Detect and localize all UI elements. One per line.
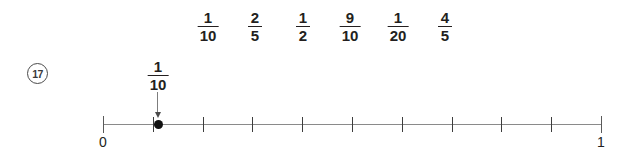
fraction-glyph: 120	[388, 10, 409, 43]
question-number-label: 17	[32, 68, 43, 80]
fraction-denominator: 2	[297, 27, 309, 43]
fraction-numerator: 1	[202, 10, 214, 26]
fraction-option-5[interactable]: 120	[388, 9, 409, 43]
fraction-denominator: 10	[340, 27, 361, 43]
number-line[interactable]: 0 1	[0, 105, 623, 149]
fraction-glyph: 1 10	[148, 59, 169, 92]
fraction-option-6[interactable]: 45	[438, 9, 452, 43]
fraction-denominator: 10	[198, 27, 219, 43]
fraction-glyph: 25	[248, 10, 262, 43]
fraction-option-2[interactable]: 25	[248, 9, 262, 43]
axis-label-end: 1	[597, 134, 605, 149]
fraction-denominator: 20	[388, 27, 409, 43]
fraction-glyph: 910	[340, 10, 361, 43]
fraction-numerator: 1	[152, 59, 164, 75]
fraction-numerator: 1	[392, 10, 404, 26]
number-line-marker-dot[interactable]	[154, 120, 163, 129]
number-line-tick	[302, 117, 303, 132]
fraction-option-3[interactable]: 12	[296, 9, 310, 43]
question-number-badge: 17	[27, 63, 48, 84]
fraction-denominator: 5	[439, 27, 451, 43]
fraction-glyph: 110	[198, 10, 219, 43]
number-line-tick	[103, 116, 104, 133]
fraction-numerator: 9	[344, 10, 356, 26]
fraction-option-bank: 110251291012045	[0, 9, 623, 49]
pointer-fraction-label: 1 10	[148, 58, 169, 92]
number-line-tick	[352, 117, 353, 132]
fraction-option-1[interactable]: 110	[198, 9, 219, 43]
fraction-glyph: 12	[296, 10, 310, 43]
fraction-numerator: 1	[297, 10, 309, 26]
number-line-tick	[551, 117, 552, 132]
fraction-numerator: 2	[249, 10, 261, 26]
number-line-tick	[252, 117, 253, 132]
fraction-denominator: 10	[148, 76, 169, 92]
fraction-denominator: 5	[249, 27, 261, 43]
fraction-glyph: 45	[438, 10, 452, 43]
number-line-tick	[402, 117, 403, 132]
axis-label-start: 0	[99, 134, 107, 149]
fraction-numerator: 4	[439, 10, 451, 26]
number-line-tick	[601, 116, 602, 133]
number-line-tick	[501, 117, 502, 132]
number-line-tick	[203, 117, 204, 132]
fraction-option-4[interactable]: 910	[340, 9, 361, 43]
number-line-tick	[452, 117, 453, 132]
